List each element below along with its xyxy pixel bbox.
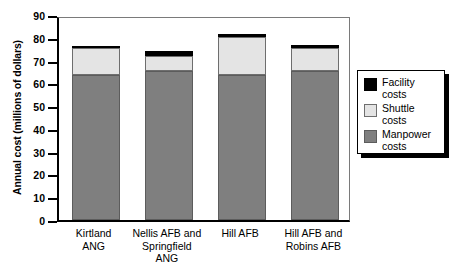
y-tick-mark xyxy=(48,198,57,200)
bar-group xyxy=(291,15,339,220)
chart-legend: Facility costs Shuttle costs Manpower co… xyxy=(357,70,445,154)
y-tick-mark xyxy=(48,130,57,132)
y-axis-title: Annual cost (millions of dollars) xyxy=(12,18,23,218)
x-axis-tick-label: Nellis AFB and Springfield ANG xyxy=(130,227,203,265)
bar-group xyxy=(72,15,120,220)
bar-segment-facility xyxy=(145,51,193,56)
x-axis-tick-label: Hill AFB and Robins AFB xyxy=(277,227,350,252)
legend-label: Manpower costs xyxy=(382,129,431,152)
bar-segment-facility xyxy=(291,45,339,48)
x-axis-tick-label: Kirtland ANG xyxy=(57,227,130,252)
legend-item: Manpower costs xyxy=(364,129,444,152)
bar-segment-shuttle xyxy=(72,48,120,75)
bar-segment-facility xyxy=(72,46,120,48)
legend-item: Facility costs xyxy=(364,77,444,100)
y-tick-label: 80 xyxy=(33,33,45,45)
y-tick-mark xyxy=(48,153,57,155)
bar-segment-manpower xyxy=(72,75,120,220)
stacked-bar-chart: Annual cost (millions of dollars) 908070… xyxy=(0,0,451,268)
y-tick-label: 40 xyxy=(33,124,45,136)
bar-segment-manpower xyxy=(145,71,193,220)
y-tick-label: 70 xyxy=(33,56,45,68)
y-tick-mark xyxy=(48,62,57,64)
bar-segment-manpower xyxy=(218,75,266,220)
y-tick-label: 30 xyxy=(33,147,45,159)
y-tick-mark xyxy=(48,175,57,177)
y-tick-label: 10 xyxy=(33,192,45,204)
legend-swatch-facility-icon xyxy=(364,78,377,91)
bar-group xyxy=(145,15,193,220)
y-tick-label: 20 xyxy=(33,169,45,181)
x-axis-tick-label: Hill AFB xyxy=(204,227,277,240)
y-tick-label: 50 xyxy=(33,101,45,113)
bar-segment-shuttle xyxy=(218,37,266,75)
y-tick-mark xyxy=(48,16,57,18)
y-tick-mark xyxy=(48,221,57,223)
y-tick-label: 60 xyxy=(33,78,45,90)
y-tick-mark xyxy=(48,39,57,41)
legend-label: Facility costs xyxy=(382,77,415,100)
bar-segment-shuttle xyxy=(145,56,193,70)
bar-group xyxy=(218,15,266,220)
y-tick-mark xyxy=(48,84,57,86)
legend-swatch-shuttle-icon xyxy=(364,104,377,117)
legend-item: Shuttle costs xyxy=(364,103,444,126)
plot-area xyxy=(57,17,350,222)
legend-swatch-manpower-icon xyxy=(364,130,377,143)
y-tick-mark xyxy=(48,107,57,109)
bar-segment-facility xyxy=(218,34,266,37)
y-tick-label: 0 xyxy=(39,215,45,227)
bar-segment-shuttle xyxy=(291,48,339,71)
bar-segment-manpower xyxy=(291,71,339,220)
legend-label: Shuttle costs xyxy=(382,103,415,126)
y-tick-label: 90 xyxy=(33,10,45,22)
